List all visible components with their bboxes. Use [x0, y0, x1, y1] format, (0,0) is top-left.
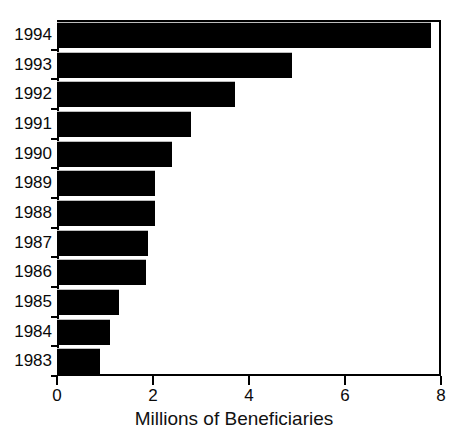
y-tick-label-1985: 1985: [0, 293, 52, 310]
bar-row: [57, 81, 441, 107]
y-tick-label-1990: 1990: [0, 145, 52, 162]
bar-row: [57, 259, 441, 285]
x-tick-mark: [56, 376, 58, 385]
x-tick-label-4: 4: [229, 387, 269, 405]
bar-1990: [57, 141, 172, 167]
x-axis-title: Millions of Beneficiaries: [0, 408, 468, 430]
x-tick-label-0: 0: [37, 387, 77, 405]
bar-row: [57, 319, 441, 345]
bar-1991: [57, 111, 191, 137]
x-tick-label-6: 6: [325, 387, 365, 405]
bar-1988: [57, 200, 155, 226]
bar-row: [57, 141, 441, 167]
bar-row: [57, 170, 441, 196]
y-tick-label-1989: 1989: [0, 174, 52, 191]
bar-row: [57, 22, 441, 48]
x-tick-mark: [344, 376, 346, 385]
bar-1983: [57, 348, 100, 374]
bar-1987: [57, 230, 148, 256]
y-tick-mark: [51, 197, 58, 199]
bar-row: [57, 289, 441, 315]
y-tick-mark: [51, 78, 58, 80]
y-tick-mark: [51, 286, 58, 288]
y-tick-mark: [51, 316, 58, 318]
x-tick-mark: [152, 376, 154, 385]
bar-1986: [57, 259, 146, 285]
x-tick-label-2: 2: [133, 387, 173, 405]
y-tick-label-1993: 1993: [0, 56, 52, 73]
y-tick-label-1983: 1983: [0, 352, 52, 369]
y-tick-label-1994: 1994: [0, 26, 52, 43]
y-tick-mark: [51, 138, 58, 140]
bar-row: [57, 230, 441, 256]
y-tick-label-1988: 1988: [0, 204, 52, 221]
bar-1992: [57, 81, 235, 107]
bar-row: [57, 200, 441, 226]
y-tick-label-1991: 1991: [0, 115, 52, 132]
bar-1994: [57, 22, 431, 48]
bar-1989: [57, 170, 155, 196]
bar-1993: [57, 52, 292, 78]
x-tick-label-8: 8: [421, 387, 461, 405]
bar-row: [57, 348, 441, 374]
bars-layer: [57, 20, 441, 376]
y-tick-mark: [51, 227, 58, 229]
bar-row: [57, 52, 441, 78]
y-tick-mark: [51, 256, 58, 258]
y-tick-mark: [51, 167, 58, 169]
x-tick-mark: [440, 376, 442, 385]
y-tick-label-1992: 1992: [0, 85, 52, 102]
y-tick-mark: [51, 49, 58, 51]
y-tick-mark: [51, 345, 58, 347]
y-tick-label-1984: 1984: [0, 323, 52, 340]
y-tick-label-1986: 1986: [0, 263, 52, 280]
bar-1985: [57, 289, 119, 315]
bar-row: [57, 111, 441, 137]
x-tick-mark: [248, 376, 250, 385]
bar-1984: [57, 319, 110, 345]
bar-chart: 1994199319921991199019891988198719861985…: [0, 0, 468, 443]
y-tick-label-1987: 1987: [0, 234, 52, 251]
y-tick-mark: [51, 108, 58, 110]
